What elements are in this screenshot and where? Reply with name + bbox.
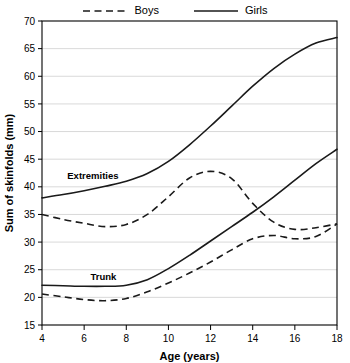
x-tick-label: 6 [81, 333, 87, 344]
y-tick-label: 40 [24, 181, 36, 192]
skinfolds-line-chart: Boys Girls 152025303540455055606570 4681… [0, 0, 350, 363]
x-axis-ticks [42, 325, 337, 330]
y-tick-label: 30 [24, 237, 36, 248]
annotation-extremities: Extremities [67, 170, 118, 181]
y-tick-label: 15 [24, 320, 36, 331]
y-tick-label: 20 [24, 292, 36, 303]
annotation-trunk: Trunk [90, 271, 117, 282]
x-axis-title: Age (years) [160, 350, 220, 362]
x-axis-tick-labels: 4681012141618 [39, 333, 343, 344]
plot-area-container: 152025303540455055606570 4681012141618 E… [0, 0, 350, 363]
y-tick-label: 45 [24, 154, 36, 165]
x-tick-label: 4 [39, 333, 45, 344]
y-tick-label: 25 [24, 264, 36, 275]
y-tick-label: 35 [24, 209, 36, 220]
x-tick-label: 16 [289, 333, 301, 344]
x-tick-label: 18 [331, 333, 343, 344]
y-tick-label: 65 [24, 43, 36, 54]
y-tick-label: 50 [24, 126, 36, 137]
x-tick-label: 10 [163, 333, 175, 344]
y-axis-ticks [38, 21, 42, 325]
y-axis-tick-labels: 152025303540455055606570 [24, 16, 36, 331]
x-tick-label: 8 [124, 333, 130, 344]
series-line [42, 224, 337, 301]
y-axis-title: Sum of skinfolds (mm) [3, 113, 15, 232]
y-tick-label: 55 [24, 99, 36, 110]
x-tick-label: 12 [205, 333, 217, 344]
y-tick-label: 60 [24, 71, 36, 82]
y-tick-label: 70 [24, 16, 36, 27]
chart-svg: 152025303540455055606570 4681012141618 E… [0, 0, 350, 363]
x-tick-label: 14 [247, 333, 259, 344]
